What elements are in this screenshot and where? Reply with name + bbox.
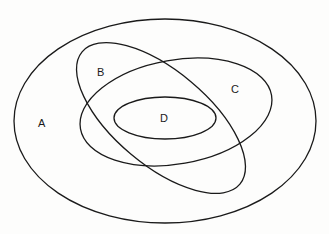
set-c-outline (71, 44, 280, 180)
set-d: D (114, 97, 216, 139)
diagram-canvas: A B C D (0, 0, 329, 234)
venn-diagram: A B C D (0, 0, 329, 234)
set-c: C (71, 44, 280, 180)
set-c-label: C (231, 83, 239, 95)
set-d-label: D (160, 112, 168, 124)
set-b-label: B (97, 66, 104, 78)
set-a-label: A (38, 117, 46, 129)
